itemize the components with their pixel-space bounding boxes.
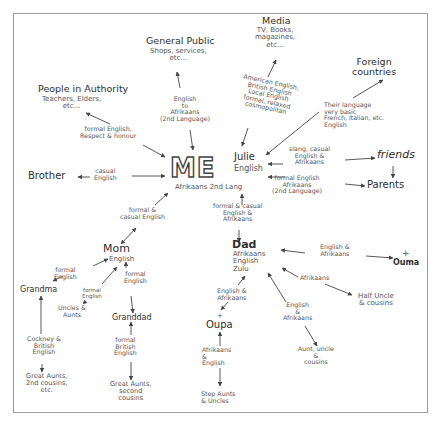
- edge-media-down: [242, 128, 248, 146]
- node-aunt-uncle-cousins: Aunt, uncle & cousins: [298, 346, 334, 366]
- edge-label-authority: formal English, Respect & honour: [80, 126, 136, 139]
- edge-authority-down: [143, 145, 165, 157]
- edge-public-down: [190, 130, 193, 150]
- edge-label-general-public: English to Afrikaans (2nd Language): [160, 96, 210, 122]
- edge-dad-aunt-up: [268, 273, 286, 302]
- node-general-public-sub: Shops, services, etc...: [150, 48, 207, 63]
- edge-label-foreign: Their language very basic French, Italia…: [324, 102, 384, 128]
- center-me-title: ME: [170, 155, 216, 182]
- edge-dad-oupa-up: [238, 276, 245, 285]
- edge-label-dad: formal & casual English & Afrikaans: [213, 203, 262, 223]
- edge-label-dad-aunt: English & Afrikaans: [283, 302, 312, 322]
- node-parents-title: Parents: [367, 180, 404, 191]
- edge-label-dad-ouma: English & Afrikaans: [320, 244, 350, 257]
- edge-public-up: [177, 72, 180, 88]
- node-media-title: Media: [262, 16, 291, 26]
- node-foreign-title: Foreign countries: [352, 57, 396, 77]
- edge-media-up: [268, 60, 276, 77]
- edge-dad-ouma-left: [281, 250, 305, 253]
- node-half-uncle: Half Uncle & cousins: [358, 293, 394, 308]
- edge-label-mom-granddad: formal English: [124, 271, 147, 284]
- edge-label-dad-half: Afrikaans: [300, 275, 329, 282]
- edge-label-parents: formal English Afrikaans (2nd Language): [272, 175, 322, 195]
- node-ouma-title: Ouma: [393, 259, 419, 267]
- edge-dad-half-right: [325, 284, 352, 295]
- edge-dad-half-left: [282, 268, 298, 277]
- edge-label-oupa-step: Afrikaans & English: [202, 347, 231, 367]
- node-general-public-title: General Public: [146, 36, 215, 46]
- edge-dad-oupa-down: [221, 302, 228, 310]
- node-grandma-title: Grandma: [20, 286, 57, 294]
- edge-label-dad-oupa: English & Afrikaans: [217, 288, 247, 301]
- edge-friends-right: [345, 158, 375, 160]
- edge-authority-up: [86, 113, 110, 124]
- edge-dad-ouma-right: [366, 256, 393, 258]
- node-authority-sub: Teachers, Elders, etc...: [42, 96, 101, 111]
- edge-mom-granddad-down: [131, 296, 133, 313]
- node-mom-sub: English: [109, 256, 134, 263]
- edge-label-mom-uncles: formal English: [82, 288, 102, 300]
- node-uncles-aunts-mom: Uncles & Aunts: [58, 305, 86, 318]
- edge-label-friends: slang, casual English & Afrikaans: [289, 146, 330, 166]
- center-language-primary: English: [234, 165, 263, 173]
- node-great-aunts-grandma: Great Aunts, 2nd cousins, etc.: [26, 373, 67, 394]
- edge-label-mom: formal & casual English: [120, 207, 165, 220]
- center-language-secondary: Afrikaans 2nd Lang: [175, 184, 242, 191]
- node-step-aunts: Step Aunts & Uncles: [201, 391, 235, 404]
- edge-parents-right: [345, 184, 365, 186]
- edge-mom-uncles: [102, 267, 117, 284]
- edge-label-grandma-great: Cockney & British English: [27, 336, 61, 356]
- edge-dad-aunt-down: [305, 326, 317, 346]
- edge-mom-grandma-up: [93, 259, 108, 266]
- node-dad-sub: Afrikaans English Zulu: [233, 251, 265, 273]
- edge-label-brother: casual English: [94, 168, 117, 181]
- node-great-aunts-granddad: Great Aunts, second cousins: [110, 381, 151, 402]
- node-mom-title: Mom: [103, 243, 130, 255]
- edge-label-mom-grandma: formal English: [54, 267, 77, 280]
- node-oupa-title: Oupa: [206, 320, 233, 331]
- center-name: Julie: [234, 152, 255, 163]
- edge-foreign-up: [353, 80, 383, 98]
- edge-label-granddad-great: formal British English: [114, 337, 137, 357]
- node-media-sub: TV, Books, magazines, etc...: [255, 27, 295, 49]
- node-dad-title: Dad: [232, 239, 256, 251]
- edge-mom-up: [155, 193, 168, 205]
- node-granddad-title: Granddad: [112, 314, 152, 322]
- node-authority-title: People in Authority: [38, 84, 128, 94]
- node-friends-title: friends: [377, 149, 415, 161]
- node-brother-title: Brother: [28, 171, 65, 182]
